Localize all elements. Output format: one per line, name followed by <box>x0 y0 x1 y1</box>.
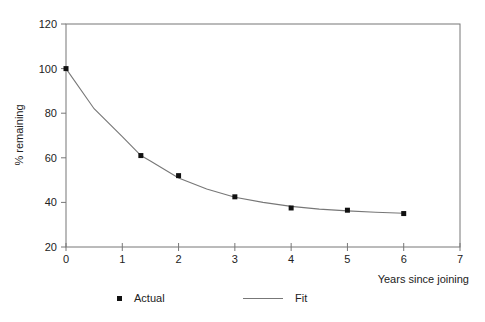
x-axis: 01234567 <box>63 243 463 265</box>
fit-line-series <box>66 69 404 214</box>
x-axis-title: Years since joining <box>378 273 469 285</box>
x-tick-label: 4 <box>288 253 294 265</box>
data-point <box>138 153 143 158</box>
y-tick-label: 100 <box>39 63 57 75</box>
y-tick-label: 120 <box>39 18 57 30</box>
legend-item-actual: Actual <box>117 292 165 304</box>
legend-item-fit: Fit <box>243 292 307 304</box>
x-tick-label: 3 <box>232 253 238 265</box>
y-tick-label: 40 <box>45 196 57 208</box>
y-tick-label: 60 <box>45 152 57 164</box>
x-tick-label: 1 <box>119 253 125 265</box>
data-point <box>64 66 69 71</box>
y-axis-title: % remaining <box>13 104 25 165</box>
line-marker-icon <box>243 298 283 299</box>
y-tick-label: 80 <box>45 107 57 119</box>
legend-label-actual: Actual <box>134 292 165 304</box>
legend-label-fit: Fit <box>295 292 307 304</box>
x-tick-label: 7 <box>457 253 463 265</box>
data-point <box>401 211 406 216</box>
square-marker-icon <box>117 296 122 301</box>
x-tick-label: 6 <box>401 253 407 265</box>
x-tick-label: 0 <box>63 253 69 265</box>
x-tick-label: 2 <box>176 253 182 265</box>
actual-points-series <box>64 66 407 216</box>
chart-legend: Actual Fit <box>0 288 485 318</box>
data-point <box>345 208 350 213</box>
y-tick-label: 20 <box>45 241 57 253</box>
chart-plot-area: 20406080100120 01234567 % remaining Year… <box>0 0 485 290</box>
x-tick-label: 5 <box>344 253 350 265</box>
data-point <box>176 173 181 178</box>
data-point <box>232 194 237 199</box>
data-point <box>289 205 294 210</box>
y-axis: 20406080100120 <box>39 18 66 253</box>
